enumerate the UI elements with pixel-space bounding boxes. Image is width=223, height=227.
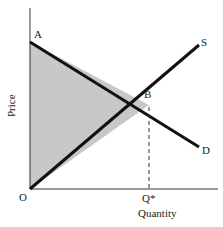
demand-label: D [202, 144, 210, 156]
supply-demand-diagram: A B S D O Q* Quantity Price [0, 0, 223, 227]
shaded-area [30, 42, 149, 189]
q-star-label: Q* [142, 192, 155, 204]
y-axis-label: Price [5, 94, 17, 117]
origin-label: O [19, 191, 27, 203]
x-axis-label: Quantity [138, 207, 177, 219]
point-a-label: A [34, 28, 42, 40]
point-b-label: B [144, 88, 151, 100]
supply-label: S [201, 36, 207, 48]
